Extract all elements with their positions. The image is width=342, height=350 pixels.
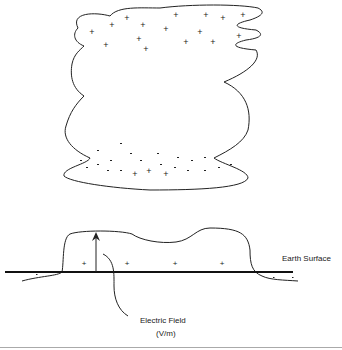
thundercloud-diagram: +++ +++ +++ +++ +++ + +++ xyxy=(0,0,342,350)
svg-text:+: + xyxy=(146,166,151,176)
svg-text:+: + xyxy=(183,37,188,47)
svg-text:+: + xyxy=(240,10,245,20)
svg-text:+: + xyxy=(220,13,225,23)
svg-text:+: + xyxy=(109,20,114,30)
svg-text:+: + xyxy=(125,259,130,268)
separator-line xyxy=(0,347,342,348)
svg-text:+: + xyxy=(220,259,225,268)
svg-text:+: + xyxy=(203,10,208,20)
svg-text:+: + xyxy=(197,27,202,37)
svg-text:+: + xyxy=(163,169,168,179)
svg-text:+: + xyxy=(132,169,137,179)
svg-text:+: + xyxy=(236,31,241,41)
electric-field-unit-label: (V/m) xyxy=(156,329,176,338)
upper-positive-charges: +++ +++ +++ +++ +++ + xyxy=(89,10,245,54)
svg-text:+: + xyxy=(140,20,145,30)
lower-positive-charges: +++ xyxy=(132,166,168,179)
ground-outer-charges xyxy=(36,274,294,278)
svg-text:+: + xyxy=(89,27,94,37)
svg-text:+: + xyxy=(173,259,178,268)
svg-text:+: + xyxy=(124,13,129,23)
svg-text:+: + xyxy=(136,34,141,44)
svg-text:+: + xyxy=(163,24,168,34)
earth-surface-label: Earth Surface xyxy=(282,254,331,263)
svg-text:+: + xyxy=(143,44,148,54)
lower-negative-charges xyxy=(80,143,232,171)
svg-text:+: + xyxy=(82,259,87,268)
svg-text:+: + xyxy=(103,40,108,50)
electric-field-profile xyxy=(22,228,298,281)
ground-positive-charges: ++++ xyxy=(82,259,225,268)
svg-text:+: + xyxy=(210,37,215,47)
svg-text:+: + xyxy=(173,10,178,20)
electric-field-label: Electric Field xyxy=(140,316,186,325)
